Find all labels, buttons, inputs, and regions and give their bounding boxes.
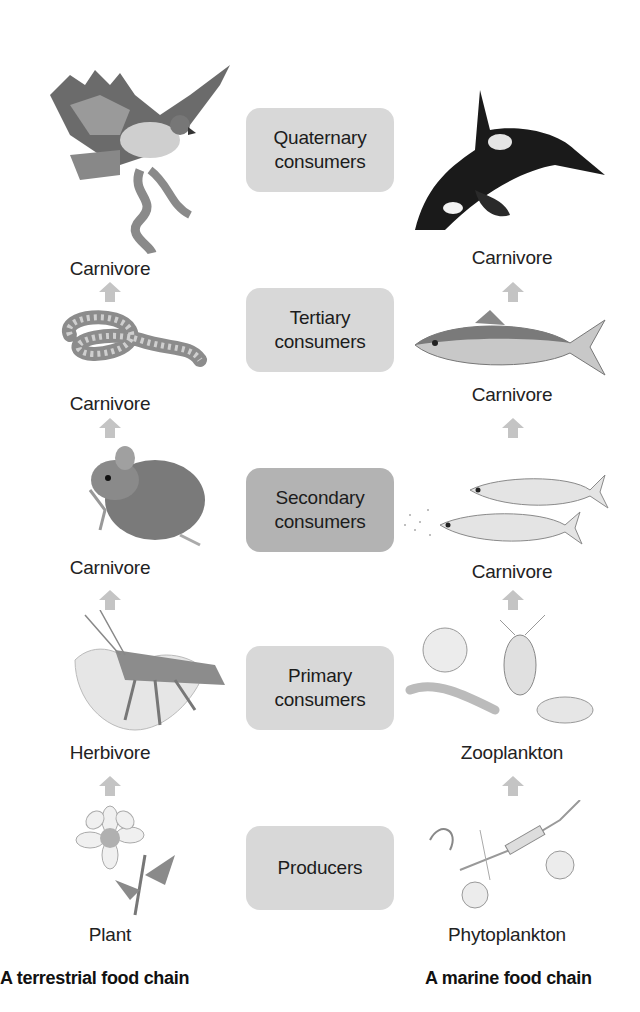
zooplankton-illustration xyxy=(405,615,610,735)
up-arrow-icon xyxy=(99,776,121,796)
level-box-secondary: Secondaryconsumers xyxy=(246,468,394,552)
flower-illustration xyxy=(75,805,195,920)
up-arrow-icon xyxy=(99,282,121,302)
terrestrial-chain-title: A terrestrial food chain xyxy=(0,968,189,989)
terrestrial-role-label: Carnivore xyxy=(30,393,190,415)
up-arrow-icon xyxy=(502,590,524,610)
terrestrial-role-label: Carnivore xyxy=(30,557,190,579)
level-label: Primary xyxy=(274,664,365,688)
tuna-illustration xyxy=(405,305,610,385)
up-arrow-icon xyxy=(502,776,524,796)
level-label: Tertiary xyxy=(274,306,365,330)
terrestrial-role-label: Carnivore xyxy=(30,258,190,280)
up-arrow-icon xyxy=(502,282,524,302)
marine-chain-title: A marine food chain xyxy=(425,968,592,989)
level-label: Producers xyxy=(278,856,363,880)
level-label: consumers xyxy=(274,688,365,712)
grasshopper-illustration xyxy=(65,610,235,740)
marine-role-label: Phytoplankton xyxy=(427,924,587,946)
marine-role-label: Carnivore xyxy=(432,247,592,269)
up-arrow-icon xyxy=(99,590,121,610)
orca-illustration xyxy=(405,80,615,240)
level-label: consumers xyxy=(273,150,366,174)
rattlesnake-illustration xyxy=(50,305,210,385)
level-label: Quaternary xyxy=(273,126,366,150)
marine-role-label: Carnivore xyxy=(432,384,592,406)
level-label: Secondary xyxy=(274,486,365,510)
hawk-illustration xyxy=(40,55,240,255)
level-box-primary: Primaryconsumers xyxy=(246,646,394,730)
level-box-producers: Producers xyxy=(246,826,394,910)
terrestrial-role-label: Herbivore xyxy=(30,742,190,764)
phytoplankton-illustration xyxy=(420,800,595,920)
up-arrow-icon xyxy=(99,418,121,438)
terrestrial-role-label: Plant xyxy=(30,924,190,946)
mouse-illustration xyxy=(70,440,210,550)
small-fish-illustration xyxy=(400,460,610,560)
level-box-quaternary: Quaternaryconsumers xyxy=(246,108,394,192)
level-label: consumers xyxy=(274,330,365,354)
up-arrow-icon xyxy=(502,418,524,438)
marine-role-label: Carnivore xyxy=(432,561,592,583)
marine-role-label: Zooplankton xyxy=(432,742,592,764)
level-label: consumers xyxy=(274,510,365,534)
level-box-tertiary: Tertiaryconsumers xyxy=(246,288,394,372)
